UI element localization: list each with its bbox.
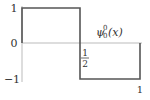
haar-wavelet-plot: 1 0 −1 1 2 1 ψ 0 0 (x) (0, 0, 150, 100)
y-tick-0: 0 (11, 37, 18, 50)
y-tick-neg1: −1 (4, 73, 20, 86)
x-tick-half-denominator: 2 (82, 59, 88, 69)
y-tick-1: 1 (11, 2, 18, 15)
function-label-sup: 0 (103, 24, 107, 32)
x-tick-1: 1 (137, 84, 143, 95)
function-label-arg: (x) (108, 26, 123, 39)
function-label-sub: 0 (103, 32, 107, 40)
x-tick-half-numerator: 1 (82, 48, 88, 58)
